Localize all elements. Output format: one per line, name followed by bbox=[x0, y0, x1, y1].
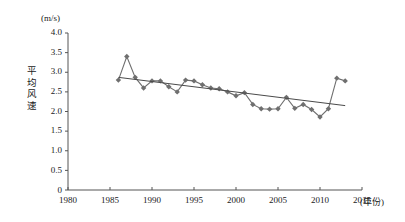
trend-line bbox=[118, 77, 345, 105]
data-point-marker bbox=[259, 106, 264, 111]
data-point-marker bbox=[301, 102, 306, 107]
data-point-marker bbox=[233, 93, 238, 98]
data-point-marker bbox=[200, 82, 205, 87]
plot-area bbox=[0, 0, 405, 222]
data-point-marker bbox=[208, 85, 213, 90]
data-point-marker bbox=[191, 78, 196, 83]
data-point-marker bbox=[267, 106, 272, 111]
data-point-marker bbox=[124, 54, 129, 59]
data-point-markers bbox=[116, 54, 348, 120]
wind-speed-line-chart: (m/s) 平 均 风 速 4.0 3.5 3.0 2.5 2.0 1.5 1.… bbox=[0, 0, 405, 222]
data-point-marker bbox=[343, 78, 348, 83]
data-point-marker bbox=[116, 77, 121, 82]
axis-lines bbox=[68, 33, 362, 190]
data-point-marker bbox=[225, 89, 230, 94]
data-point-marker bbox=[334, 75, 339, 80]
